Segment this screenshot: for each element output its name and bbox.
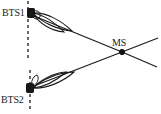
bts2-antenna-lobes-group bbox=[32, 72, 74, 88]
diagram-canvas: BTS1 BTS2 MS bbox=[0, 0, 161, 114]
bts1-station-marker bbox=[28, 9, 35, 18]
bts2-label: BTS2 bbox=[1, 94, 24, 105]
bts-ms-geometry-diagram: BTS1 BTS2 MS bbox=[0, 0, 161, 114]
bts1-label: BTS1 bbox=[2, 7, 25, 18]
ms-mobile-marker bbox=[119, 49, 124, 54]
bts2-path-extension bbox=[122, 38, 158, 52]
bts1-to-ms-path bbox=[34, 16, 122, 52]
bts1-path-extension bbox=[122, 52, 157, 67]
bts2-station-marker bbox=[27, 84, 34, 93]
node-labels-group: BTS1 BTS2 MS bbox=[1, 7, 126, 105]
bts2-to-ms-path bbox=[34, 52, 122, 86]
station-markers-group bbox=[27, 9, 125, 93]
ms-label: MS bbox=[112, 37, 126, 48]
